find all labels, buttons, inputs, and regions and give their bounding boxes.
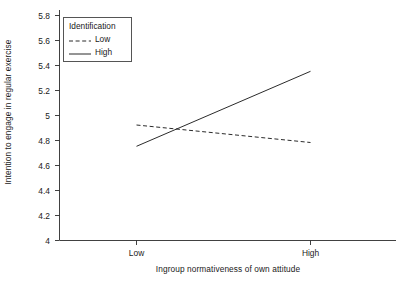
y-tick-label: 4.4: [38, 186, 50, 196]
x-tick-label: High: [302, 248, 320, 258]
x-tick-label: Low: [129, 248, 145, 258]
y-tick-label: 4.6: [38, 161, 50, 171]
legend-swatch-dashed-icon: [69, 40, 91, 42]
y-tick-marks: [55, 16, 60, 241]
y-tick-label: 5.6: [38, 36, 50, 46]
x-tick-marks: [137, 241, 311, 246]
legend-label-high: High: [95, 47, 112, 57]
plot-area: 5.8 5.6 5.4 5.2 5 4.8 4.6 4.4 4.2 4 Low …: [0, 0, 401, 286]
y-tick-label: 5: [45, 111, 50, 121]
y-tick-label: 5.4: [38, 61, 50, 71]
y-tick-label: 4.2: [38, 211, 50, 221]
series-line-high: [137, 71, 311, 146]
y-tick-label: 5.2: [38, 86, 50, 96]
series-line-low: [137, 125, 311, 143]
y-tick-label: 4: [45, 236, 50, 246]
chart-container: Intention to engage in regular exercise …: [0, 0, 401, 286]
y-tick-label: 4.8: [38, 136, 50, 146]
legend-entry-high: High: [69, 47, 131, 60]
legend-title: Identification: [69, 21, 116, 31]
y-tick-label: 5.8: [38, 11, 50, 21]
legend: Identification Low High: [63, 17, 132, 62]
legend-entry-low: Low: [69, 34, 131, 47]
legend-label-low: Low: [95, 34, 110, 44]
x-axis-title: Ingroup normativeness of own attitude: [60, 264, 396, 274]
legend-swatch-solid-icon: [69, 53, 91, 55]
